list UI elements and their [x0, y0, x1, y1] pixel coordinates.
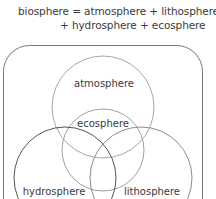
venn-diagram: atmosphere ecosphere hydrosphere lithosp… [0, 0, 216, 199]
ecosphere-label: ecosphere [77, 118, 129, 129]
lithosphere-label: lithosphere [124, 186, 180, 197]
atmosphere-circle [52, 56, 154, 158]
atmosphere-label: atmosphere [74, 78, 134, 89]
hydrosphere-label: hydrosphere [23, 186, 86, 197]
